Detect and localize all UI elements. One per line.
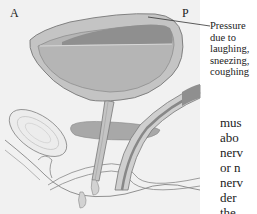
urine-drop (79, 192, 87, 208)
callout-line: sneezing, (210, 55, 257, 67)
callout-line: coughing (210, 66, 257, 78)
anterior-label: A (10, 6, 19, 21)
body-text-line: nerv (220, 175, 257, 190)
callout-line: due to (210, 32, 257, 44)
bladder-diagram: A P (0, 0, 200, 214)
pressure-callout: Pressure due to laughing, sneezing, coug… (210, 20, 257, 78)
urine-drop (91, 180, 99, 195)
body-text-line: mus (220, 115, 257, 130)
body-text-line: abo (220, 130, 257, 145)
posterior-label: P (182, 6, 189, 21)
urethra (92, 100, 114, 181)
body-text-fragment: mus abo nerv or n nerv der the (220, 115, 257, 214)
body-text-line: or n (220, 160, 257, 175)
callout-line: Pressure (210, 20, 257, 32)
body-text-line: the (220, 205, 257, 214)
body-text-line: der (220, 190, 257, 205)
callout-line: laughing, (210, 43, 257, 55)
body-text-line: nerv (220, 145, 257, 160)
